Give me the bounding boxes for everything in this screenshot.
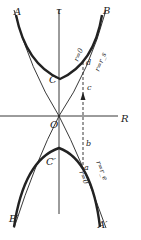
singularity-past bbox=[14, 148, 100, 227]
label-A: A bbox=[13, 6, 21, 17]
label-R: R bbox=[120, 113, 129, 124]
thin-curve-left-upper bbox=[14, 10, 106, 228]
label-lower-re: r=r_e bbox=[94, 160, 109, 182]
label-d: d bbox=[86, 58, 91, 67]
label-c: c bbox=[87, 83, 92, 92]
label-C-prime: C′ bbox=[46, 156, 57, 167]
thin-curve-right-upper bbox=[14, 10, 106, 228]
label-C: C bbox=[49, 74, 57, 85]
label-O: O bbox=[50, 119, 58, 130]
label-B: B bbox=[102, 5, 110, 16]
arrow-up-icon bbox=[81, 92, 86, 100]
label-lower-r0: r=0 bbox=[77, 170, 90, 186]
label-tau: τ bbox=[56, 5, 62, 16]
label-A-prime: A′ bbox=[97, 219, 108, 230]
kruskal-diagram: A B τ C d c O R b C′ a B′ A′ r=0 r=r_s r… bbox=[0, 0, 141, 240]
label-upper-rs: r=r_s bbox=[93, 51, 108, 73]
label-b: b bbox=[86, 139, 91, 148]
label-B-prime: B′ bbox=[8, 213, 19, 224]
